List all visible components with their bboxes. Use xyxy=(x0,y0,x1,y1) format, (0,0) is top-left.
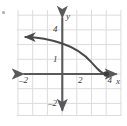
x-tick-label-2: 2 xyxy=(78,76,83,85)
y-tick-label-1: 1 xyxy=(53,55,58,64)
x-tick-label-neg2: –2 xyxy=(19,76,28,85)
coordinate-plane xyxy=(0,0,127,126)
x-tick-label-4: 4 xyxy=(108,76,113,85)
y-tick-label-neg2: –2 xyxy=(48,99,57,108)
y-axis-name: y xyxy=(66,12,70,21)
graph-figure: –2 2 4 4 1 –2 y x xyxy=(0,0,127,126)
x-axis-name: x xyxy=(116,77,120,86)
y-tick-label-4: 4 xyxy=(53,25,58,34)
